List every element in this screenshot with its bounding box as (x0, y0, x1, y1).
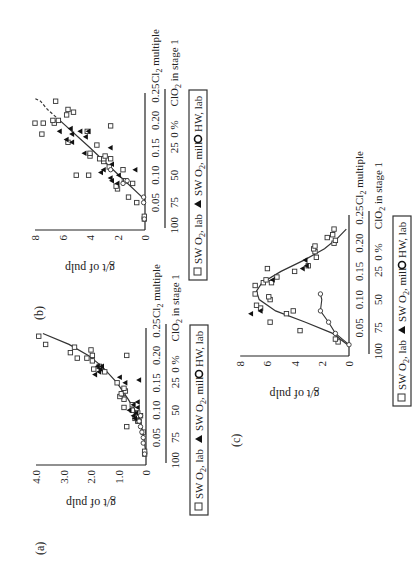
y-tick-label: 3.0 (58, 470, 70, 484)
x-tick-label: 0.15 (150, 373, 162, 393)
marker-sw-lab (85, 356, 89, 360)
marker-sw-mill (57, 129, 62, 135)
marker-sw-mill (77, 129, 82, 135)
y-tick-label: 4.0 (30, 470, 42, 484)
marker-sw-lab (56, 118, 60, 122)
y-tick-label: 0 (140, 470, 152, 476)
y-axis-label: g/t of pulp (270, 387, 320, 401)
chart-panel-a: (a)01.02.03.04.0g/t of pulp0.050.100.150… (30, 264, 208, 555)
marker-hw-lab (125, 178, 129, 182)
marker-hw-lab (142, 452, 146, 456)
marker-sw-lab (88, 151, 92, 155)
marker-sw-lab (121, 168, 125, 172)
secondary-tick-label: 0 % (169, 355, 181, 372)
marker-sw-lab (298, 328, 302, 332)
marker-sw-lab (313, 244, 317, 248)
marker-hw-lab (141, 435, 145, 439)
y-tick-label: 0 (139, 235, 151, 241)
legend: SW O2, labSW O2, millHW, lab (190, 325, 208, 515)
marker-sw-lab (291, 309, 295, 313)
x-tick-label: 0.10 (150, 400, 162, 420)
marker-sw-mill (302, 257, 307, 263)
x-tick-label: 0.05 (149, 192, 161, 212)
y-axis-label: g/t of pulp (66, 496, 116, 510)
x-axis-title: Cl2 multiple (353, 151, 368, 205)
y-tick-label: 6 (57, 235, 69, 241)
marker-sw-mill (117, 375, 122, 381)
marker-sw-lab (253, 283, 257, 287)
marker-sw-lab (90, 359, 94, 363)
marker-sw-lab (95, 143, 99, 147)
marker-sw-mill (69, 131, 74, 137)
marker-sw-lab (90, 353, 94, 357)
marker-sw-lab (284, 312, 288, 316)
marker-sw-lab (122, 405, 126, 409)
secondary-tick-label: 0 % (372, 243, 384, 260)
marker-sw-lab (37, 334, 41, 338)
marker-hw-lab (141, 195, 145, 199)
x-axis-title: Cl2 multiple (150, 264, 165, 318)
x-tick-label: 0.15 (149, 138, 161, 158)
secondary-tick-label: 75 (169, 432, 181, 444)
marker-sw-lab (71, 110, 75, 114)
open-circle-icon (399, 262, 406, 269)
x-tick-label: 0.05 (150, 427, 162, 447)
marker-sw-lab (267, 295, 271, 299)
x-axis-secondary-title: ClO2 in stage 1 (169, 274, 184, 341)
marker-hw-lab (140, 430, 144, 434)
y-axis-label: g/t of pulp (65, 261, 115, 275)
y-tick-label: 4 (84, 235, 96, 241)
marker-sw-lab (64, 113, 68, 117)
marker-sw-lab (72, 345, 76, 349)
marker-sw-mill (108, 145, 113, 151)
secondary-tick-label: 50 (168, 169, 180, 181)
marker-hw-lab (326, 320, 330, 324)
x-tick-label: 0.25 (149, 83, 161, 103)
marker-sw-lab (330, 233, 334, 237)
x-tick-label: 0.15 (353, 261, 365, 281)
open-square-icon (398, 394, 405, 401)
marker-sw-lab (292, 269, 296, 273)
open-square-icon (194, 268, 201, 275)
marker-sw-lab (41, 121, 45, 125)
secondary-tick-label: 50 (372, 294, 384, 306)
x-tick-label: 0.05 (353, 318, 365, 338)
marker-sw-lab (86, 173, 90, 177)
marker-sw-lab (108, 157, 112, 161)
y-tick-label: 2.0 (85, 470, 97, 484)
marker-sw-lab (115, 381, 119, 385)
marker-sw-lab (264, 278, 268, 282)
legend: SW O2, labSW O2, millHW, lab (393, 216, 411, 406)
marker-sw-lab (126, 195, 130, 199)
secondary-tick-label: 25 (168, 142, 180, 154)
y-tick-label: 2 (316, 361, 328, 367)
marker-hw-lab (318, 309, 322, 313)
marker-sw-lab (275, 275, 279, 279)
marker-sw-mill (108, 175, 113, 181)
marker-sw-lab (53, 99, 57, 103)
chart-canvas: (a)01.02.03.04.0g/t of pulp0.050.100.150… (0, 0, 416, 569)
marker-sw-lab (40, 132, 44, 136)
marker-sw-mill (300, 266, 305, 272)
figure: (a)01.02.03.04.0g/t of pulp0.050.100.150… (0, 0, 416, 569)
marker-sw-lab (108, 124, 112, 128)
x-tick-label: 0.20 (353, 233, 365, 253)
marker-hw-lab (138, 424, 142, 428)
y-tick-label: 6 (261, 361, 273, 367)
x-tick-label: 0.10 (149, 165, 161, 185)
y-tick-label: 8 (234, 361, 246, 367)
marker-sw-lab (333, 238, 337, 242)
marker-hw-lab (141, 441, 145, 445)
x-tick-label: 0.10 (353, 289, 365, 309)
marker-sw-lab (268, 320, 272, 324)
marker-sw-lab (89, 348, 93, 352)
secondary-tick-label: 100 (169, 452, 181, 469)
x-tick-label: 0.20 (150, 345, 162, 365)
secondary-tick-label: 75 (372, 322, 384, 334)
y-tick-label: 8 (29, 235, 41, 241)
secondary-tick-label: 0 % (168, 120, 180, 137)
secondary-tick-label: 25 (169, 377, 181, 389)
secondary-tick-label: 100 (372, 342, 384, 359)
secondary-tick-label: 25 (372, 265, 384, 277)
marker-sw-lab (135, 200, 139, 204)
